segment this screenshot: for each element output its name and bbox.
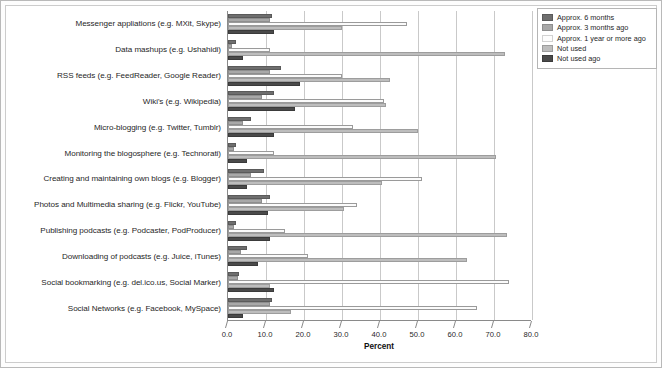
x-axis-title: Percent: [227, 342, 531, 351]
x-tick-label: 20.0: [283, 330, 323, 339]
bar-group: [228, 89, 531, 115]
x-tick: [301, 321, 304, 328]
bar: [228, 159, 247, 163]
legend-label: Approx. 6 months: [557, 13, 614, 22]
x-tick: [225, 321, 228, 328]
legend-item[interactable]: Approx. 1 year or more ago: [542, 33, 652, 43]
legend-swatch-icon: [542, 35, 553, 42]
bar: [228, 181, 382, 185]
bar-group: [228, 244, 531, 270]
category-label: Social Networks (e.g. Facebook, MySpace): [9, 304, 221, 313]
category-label: Social bookmarking (e.g. del.ico.us, Soc…: [9, 278, 221, 287]
category-label: Downloading of podcasts (e.g. Juice, iTu…: [9, 252, 221, 261]
category-label: Messenger appliations (e.g. MXit, Skype): [9, 19, 221, 28]
category-label: Publishing podcasts (e.g. Podcaster, Pod…: [9, 226, 221, 235]
category-label: Photos and Multimedia sharing (e.g. Flic…: [9, 200, 221, 209]
bar-group: [228, 114, 531, 140]
bar: [228, 56, 243, 60]
x-tick: [263, 321, 266, 328]
bar-group: [228, 63, 531, 89]
bar-group: [228, 11, 531, 37]
bar: [228, 314, 243, 318]
category-label: RSS feeds (e.g. FeedReader, Google Reade…: [9, 71, 221, 80]
category-axis-labels: Messenger appliations (e.g. MXit, Skype)…: [9, 11, 221, 321]
x-tick-label: 30.0: [321, 330, 361, 339]
bar: [228, 155, 496, 159]
legend-item[interactable]: Approx. 6 months: [542, 13, 652, 23]
x-tick-label: 0.0: [207, 330, 247, 339]
bar-group: [228, 140, 531, 166]
x-tick-label: 40.0: [359, 330, 399, 339]
category-label: Wiki's (e.g. Wikipedia): [9, 97, 221, 106]
x-tick-label: 70.0: [473, 330, 513, 339]
x-tick-label: 10.0: [245, 330, 285, 339]
chart-legend: Approx. 6 monthsApprox. 3 months agoAppr…: [537, 8, 657, 69]
category-label: Creating and maintaining own blogs (e.g.…: [9, 174, 221, 183]
bar: [228, 288, 274, 292]
chart-figure: Messenger appliations (e.g. MXit, Skype)…: [0, 0, 662, 368]
legend-label: Approx. 3 months ago: [557, 23, 628, 32]
bar: [228, 262, 258, 266]
x-tick-label: 50.0: [397, 330, 437, 339]
x-tick: [491, 321, 494, 328]
x-tick: [339, 321, 342, 328]
legend-swatch-icon: [542, 45, 553, 52]
x-tick: [453, 321, 456, 328]
bar: [228, 52, 505, 56]
legend-swatch-icon: [542, 24, 553, 31]
category-label: Micro-blogging (e.g. Twitter, Tumblr): [9, 123, 221, 132]
plot-area: [227, 11, 531, 321]
bar-group: [228, 166, 531, 192]
legend-item[interactable]: Not used ago: [542, 54, 652, 64]
bar: [228, 258, 467, 262]
bar: [228, 211, 268, 215]
bar: [228, 107, 295, 111]
x-tick: [377, 321, 380, 328]
bar: [228, 133, 274, 137]
legend-label: Approx. 1 year or more ago: [557, 34, 646, 43]
category-label: Monitoring the blogosphere (e.g. Technor…: [9, 149, 221, 158]
category-label: Data mashups (e.g. Ushahidi): [9, 45, 221, 54]
legend-swatch-icon: [542, 14, 553, 21]
bar-group: [228, 269, 531, 295]
bar-group: [228, 37, 531, 63]
legend-swatch-icon: [542, 55, 553, 62]
bar: [228, 30, 274, 34]
legend-label: Not used: [557, 44, 586, 53]
x-tick: [415, 321, 418, 328]
legend-item[interactable]: Approx. 3 months ago: [542, 23, 652, 33]
gridline-80.0: [532, 11, 533, 320]
bar-group: [228, 192, 531, 218]
bar: [228, 233, 507, 237]
bar: [228, 82, 300, 86]
x-tick-label: 80.0: [511, 330, 551, 339]
legend-label: Not used ago: [557, 54, 600, 63]
bar: [228, 185, 247, 189]
bar: [228, 237, 270, 241]
legend-item[interactable]: Not used: [542, 44, 652, 54]
bar-group: [228, 295, 531, 321]
bar: [228, 280, 509, 284]
bar-group: [228, 218, 531, 244]
x-tick-label: 60.0: [435, 330, 475, 339]
